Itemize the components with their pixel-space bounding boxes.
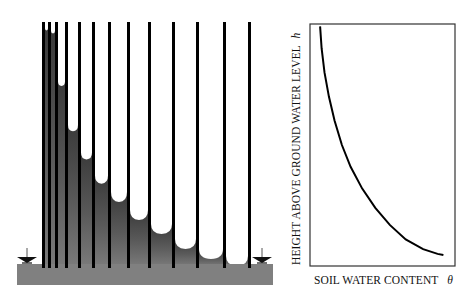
tube-wall: [148, 22, 151, 268]
x-axis-label: SOIL WATER CONTENT θ: [314, 274, 453, 286]
tube-wall: [65, 22, 68, 268]
y-axis-symbol: h: [290, 33, 302, 39]
water-column: [175, 239, 196, 266]
water-column: [111, 192, 127, 266]
tube-wall: [127, 22, 130, 268]
tube-wall: [92, 22, 95, 268]
water-column: [151, 224, 172, 266]
tube-wall: [42, 22, 45, 268]
y-axis-label: HEIGHT ABOVE GROUND WATER LEVEL h: [290, 33, 302, 265]
tube-wall: [108, 22, 111, 268]
tube-wall: [223, 22, 226, 268]
water-column: [95, 176, 108, 267]
retention-curve-chart: SOIL WATER CONTENT θ HEIGHT ABOVE GROUND…: [290, 24, 455, 286]
water-column: [199, 249, 223, 266]
water-column: [58, 82, 65, 267]
capillary-tubes-panel: [17, 22, 273, 285]
tube-wall: [196, 22, 199, 268]
tube-wall: [48, 22, 51, 268]
x-axis-label-text: SOIL WATER CONTENT: [314, 274, 438, 286]
water-column: [45, 29, 48, 267]
capillary-rise-figure: SOIL WATER CONTENT θ HEIGHT ABOVE GROUND…: [0, 0, 468, 300]
left-water-table-arrow-icon: [17, 248, 37, 263]
x-axis-symbol: θ: [447, 274, 453, 286]
water-column: [130, 210, 148, 266]
retention-curve-line: [320, 26, 443, 255]
chart-frame: [310, 24, 455, 266]
tube-wall: [55, 22, 58, 268]
water-columns: [45, 29, 248, 267]
water-column: [68, 125, 78, 266]
water-column: [51, 31, 55, 266]
tube-wall: [172, 22, 175, 268]
y-axis-label-text: HEIGHT ABOVE GROUND WATER LEVEL: [290, 45, 302, 265]
tube-wall: [248, 22, 251, 268]
right-water-table-arrow-icon: [252, 248, 272, 263]
tube-wall: [78, 22, 81, 268]
water-column: [81, 153, 92, 267]
